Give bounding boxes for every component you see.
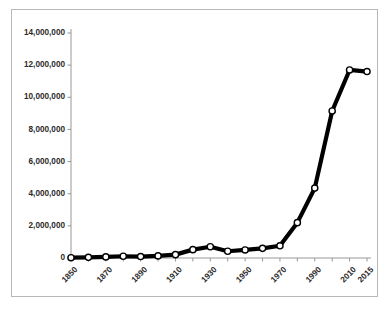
series-line (71, 70, 367, 258)
data-point-marker (103, 254, 109, 260)
data-point-marker (225, 248, 231, 254)
chart-figure: 02,000,0004,000,0006,000,0008,000,00010,… (11, 9, 378, 297)
data-point-marker (242, 247, 248, 253)
y-tick-label: 12,000,000 (24, 60, 65, 69)
data-point-marker (172, 252, 178, 258)
data-point-marker (190, 247, 196, 253)
x-tick-label: 1910 (165, 265, 185, 285)
y-tick-label: 4,000,000 (29, 189, 66, 198)
data-point-marker (277, 243, 283, 249)
chart-plot-area: 02,000,0004,000,0006,000,0008,000,00010,… (12, 10, 377, 296)
data-point-marker (294, 220, 300, 226)
data-point-marker (120, 253, 126, 259)
x-tick-label: 1890 (130, 265, 150, 285)
y-tick-label: 0 (60, 253, 65, 262)
x-tick-label: 1870 (95, 265, 115, 285)
data-point-marker (346, 67, 352, 73)
x-tick-label: 2015 (356, 265, 376, 285)
y-tick-label: 14,000,000 (24, 28, 65, 37)
x-tick-label: 1930 (199, 265, 219, 285)
line-chart: 02,000,0004,000,0006,000,0008,000,00010,… (12, 10, 379, 298)
data-point-marker (364, 68, 370, 74)
data-point-marker (329, 108, 335, 114)
data-point-marker (155, 253, 161, 259)
x-tick-label: 1850 (60, 265, 80, 285)
data-point-marker (259, 245, 265, 251)
y-tick-label: 8,000,000 (29, 125, 66, 134)
x-tick-label: 1990 (304, 265, 324, 285)
x-tick-label: 1950 (234, 265, 254, 285)
x-tick-label: 1970 (269, 265, 289, 285)
data-point-marker (312, 185, 318, 191)
data-point-marker (68, 255, 74, 261)
data-point-marker (207, 244, 213, 250)
data-point-marker (138, 253, 144, 259)
x-tick-label: 2010 (339, 265, 359, 285)
y-tick-label: 6,000,000 (29, 157, 66, 166)
y-tick-label: 2,000,000 (29, 221, 66, 230)
data-point-marker (85, 254, 91, 260)
y-tick-label: 10,000,000 (24, 92, 65, 101)
